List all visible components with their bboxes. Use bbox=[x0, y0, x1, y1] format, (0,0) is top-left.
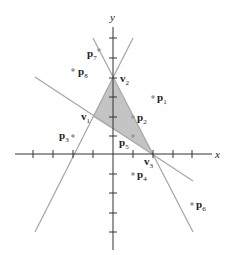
label-p8: p8 bbox=[78, 65, 88, 80]
x-axis-label: x bbox=[214, 148, 220, 160]
point-p2-marker bbox=[131, 115, 135, 119]
label-p6: p6 bbox=[196, 198, 206, 213]
label-p4: p4 bbox=[137, 168, 147, 183]
point-p3-marker bbox=[71, 134, 75, 138]
point-p7-marker bbox=[97, 48, 101, 52]
label-v2: v2 bbox=[120, 72, 130, 87]
point-p6-marker bbox=[190, 202, 194, 206]
label-p1: p1 bbox=[157, 91, 167, 106]
label-v3: v3 bbox=[144, 155, 154, 170]
convex-hull-diagram: x y p1 p2 p3 p4 p5 p6 p7 p8 v1 v2 v3 bbox=[0, 0, 231, 255]
point-p8-marker bbox=[71, 68, 75, 72]
point-p5-marker bbox=[131, 134, 135, 138]
label-p3: p3 bbox=[59, 129, 69, 144]
point-p4-marker bbox=[131, 172, 135, 176]
y-axis-label: y bbox=[109, 11, 115, 23]
point-p1-marker bbox=[151, 95, 155, 99]
label-p2: p2 bbox=[137, 111, 147, 126]
label-p7: p7 bbox=[87, 47, 97, 62]
line-v2-v3 bbox=[93, 38, 193, 232]
